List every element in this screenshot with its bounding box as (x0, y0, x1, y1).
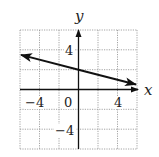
x-tick-4: 4 (114, 95, 122, 110)
coordinate-graph: y x 4 −4 −4 0 4 (0, 0, 159, 157)
y-tick-4: 4 (65, 43, 73, 58)
y-axis-label: y (74, 7, 84, 25)
x-tick-0: 0 (64, 95, 72, 110)
y-tick-neg4: −4 (55, 123, 74, 138)
x-tick-neg4: −4 (25, 95, 44, 110)
plotted-line (79, 70, 137, 85)
x-axis-label: x (144, 81, 153, 99)
